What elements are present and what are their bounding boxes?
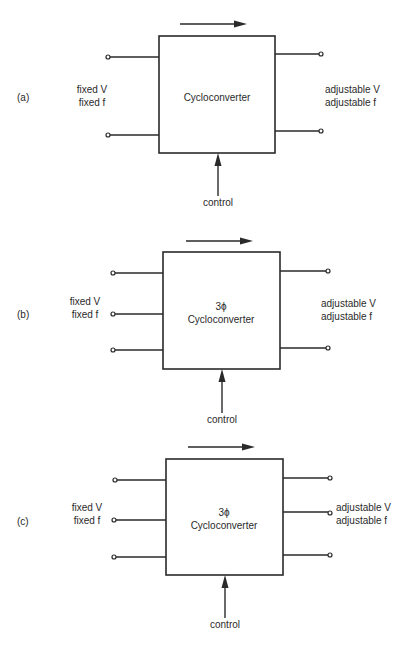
terminal-icon	[106, 133, 110, 137]
terminal-icon	[112, 518, 116, 522]
control-label: control	[210, 619, 240, 630]
terminal-icon	[111, 271, 115, 275]
output-terminals	[275, 52, 323, 133]
terminal-icon	[113, 478, 117, 482]
input-label-frequency: fixed f	[74, 515, 101, 526]
output-label-voltage: adjustable V	[336, 502, 391, 513]
terminal-icon	[319, 129, 323, 133]
panel-a: (a) Cycloconverter fixed V fixed f adjus…	[17, 21, 380, 209]
output-label-voltage: adjustable V	[321, 298, 376, 309]
panel-label: (a)	[17, 92, 29, 103]
block-name: Cycloconverter	[184, 92, 251, 103]
panel-label: (c)	[17, 516, 29, 527]
input-terminals	[112, 478, 166, 559]
input-terminals	[111, 271, 163, 352]
block-title: 3ϕ	[218, 507, 230, 518]
terminal-icon	[106, 55, 110, 59]
input-label-frequency: fixed f	[72, 309, 99, 320]
block-title: 3ϕ	[215, 301, 227, 312]
control-arrow-icon	[222, 575, 229, 618]
power-flow-arrow-icon	[180, 21, 247, 28]
power-flow-arrow-icon	[188, 444, 255, 451]
output-terminals	[280, 269, 330, 350]
input-label-frequency: fixed f	[79, 97, 106, 108]
panel-b: (b) 3ϕ Cycloconverter fixed V fixed f ad…	[17, 238, 376, 426]
terminal-icon	[328, 553, 332, 557]
output-label-voltage: adjustable V	[325, 84, 380, 95]
terminal-icon	[111, 348, 115, 352]
control-arrow-icon	[215, 153, 222, 196]
terminal-icon	[328, 511, 332, 515]
terminal-icon	[319, 52, 323, 56]
control-label: control	[207, 414, 237, 425]
output-terminals	[283, 476, 332, 557]
control-label: control	[203, 197, 233, 208]
block-name: Cycloconverter	[191, 520, 258, 531]
terminal-icon	[112, 555, 116, 559]
control-arrow-icon	[219, 369, 226, 413]
cycloconverter-figure: (a) Cycloconverter fixed V fixed f adjus…	[0, 0, 405, 649]
input-label-voltage: fixed V	[70, 296, 101, 307]
block-name: Cycloconverter	[188, 314, 255, 325]
output-label-frequency: adjustable f	[336, 515, 387, 526]
panel-label: (b)	[17, 309, 29, 320]
output-label-frequency: adjustable f	[321, 311, 372, 322]
terminal-icon	[326, 346, 330, 350]
input-label-voltage: fixed V	[72, 502, 103, 513]
terminal-icon	[328, 476, 332, 480]
input-terminals	[106, 55, 159, 137]
power-flow-arrow-icon	[186, 238, 253, 245]
terminal-icon	[111, 312, 115, 316]
input-label-voltage: fixed V	[77, 84, 108, 95]
output-label-frequency: adjustable f	[325, 97, 376, 108]
terminal-icon	[326, 269, 330, 273]
panel-c: (c) 3ϕ Cycloconverter fixed V fixed f ad…	[17, 444, 391, 631]
